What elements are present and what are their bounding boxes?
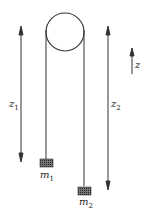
z-axis-arrow-icon [130,48,134,74]
label-z1: z1 [9,99,19,112]
mass-m2 [78,187,91,195]
mass-m1 [40,159,53,167]
label-m1: m1 [40,170,54,183]
diagram-graphics [0,0,149,220]
atwood-machine-diagram: z1 z2 z m1 m2 [0,0,149,220]
label-z2: z2 [111,99,121,112]
pulley [46,13,84,51]
z1-double-arrow-icon [19,26,23,162]
label-z-axis: z [135,60,140,70]
label-m2: m2 [79,197,93,210]
z2-double-arrow-icon [106,26,110,190]
